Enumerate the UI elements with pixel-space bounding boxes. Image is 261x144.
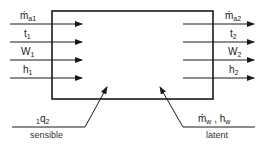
sensible-heat-label: 1q2 [36, 114, 49, 127]
latent-caption: latent [206, 131, 228, 140]
output-label-temperature: t2 [230, 29, 237, 42]
output-label-mass-flow: ṁa2 [225, 11, 241, 24]
input-label-mass-flow: ṁa1 [20, 11, 36, 24]
input-label-temperature: t1 [24, 29, 31, 42]
output-label-humidity-ratio: W2 [228, 47, 241, 60]
sensible-caption: sensible [30, 131, 63, 140]
output-arrows [183, 24, 254, 78]
output-label-enthalpy: h2 [229, 65, 238, 78]
latent-flow-label: ṁw , hw [198, 114, 230, 127]
input-label-humidity-ratio: W1 [21, 47, 34, 60]
input-label-enthalpy: h1 [23, 65, 32, 78]
sensible-leader-arrow [12, 87, 107, 127]
